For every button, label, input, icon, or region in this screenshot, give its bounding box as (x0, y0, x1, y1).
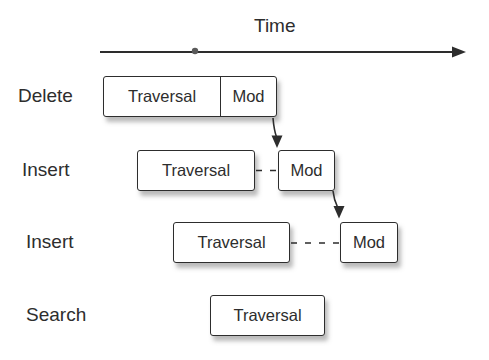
delete-traversal-box: Traversal (104, 77, 220, 116)
row-label-insert-2: Insert (26, 232, 74, 252)
time-axis-arrowhead-icon (452, 47, 466, 58)
delete-mod-box: Mod (220, 77, 276, 116)
insert1-mod-box: Mod (278, 150, 335, 191)
delete-phase-box: Traversal Mod (103, 76, 277, 117)
row-label-insert-1: Insert (22, 160, 70, 180)
time-axis-label: Time (254, 15, 296, 36)
insert1-to-insert2-arrowhead-icon (334, 206, 345, 219)
row-label-delete: Delete (18, 86, 73, 106)
operation-timeline-diagram: Time Delete Insert Insert Search Travers… (0, 0, 489, 360)
insert1-to-insert2-arrow-line (333, 191, 338, 207)
row-label-search: Search (26, 305, 86, 325)
search-traversal-box: Traversal (210, 295, 325, 336)
delete-to-insert1-arrow-line (273, 118, 277, 137)
delete-to-insert1-arrowhead-icon (272, 136, 283, 149)
insert2-mod-box: Mod (340, 222, 398, 263)
insert2-traversal-box: Traversal (173, 222, 290, 263)
time-axis-marker-dot (192, 48, 198, 54)
insert1-traversal-box: Traversal (137, 150, 255, 191)
